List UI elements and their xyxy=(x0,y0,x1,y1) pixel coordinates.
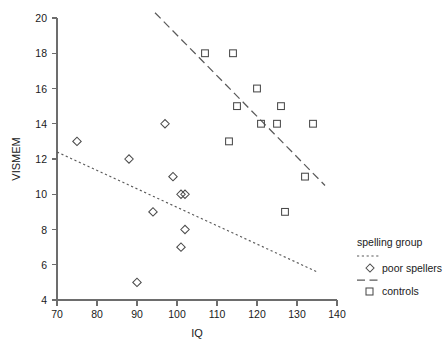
data-point xyxy=(234,103,241,110)
y-tick-label: 16 xyxy=(35,83,47,95)
x-tick-label: 70 xyxy=(51,308,63,320)
legend-marker-square xyxy=(366,288,373,295)
data-point xyxy=(230,50,237,57)
data-point xyxy=(149,208,157,216)
y-tick-label: 14 xyxy=(35,118,47,130)
y-tick-label: 8 xyxy=(41,224,47,236)
data-point xyxy=(302,173,309,180)
y-axis-ticks xyxy=(52,18,57,300)
x-tick-label: 120 xyxy=(248,308,266,320)
y-tick-label: 18 xyxy=(35,47,47,59)
data-point xyxy=(177,243,185,251)
data-point xyxy=(202,50,209,57)
y-tick-label: 4 xyxy=(41,294,47,306)
y-axis-title: VISMEM xyxy=(10,137,22,180)
fit-line-controls xyxy=(155,13,325,186)
legend-label-poor-spellers: poor spellers xyxy=(382,262,442,274)
fit-line-poor-spellers xyxy=(57,152,317,272)
series-poor-spellers xyxy=(57,120,317,287)
legend-marker-diamond xyxy=(366,264,374,272)
y-tick-label: 12 xyxy=(35,153,47,165)
x-tick-label: 80 xyxy=(91,308,103,320)
data-point xyxy=(161,120,169,128)
data-point xyxy=(254,85,261,92)
data-series-layer xyxy=(57,13,325,287)
data-point xyxy=(278,103,285,110)
x-tick-label: 90 xyxy=(131,308,143,320)
data-point xyxy=(133,278,141,286)
x-tick-label: 110 xyxy=(209,308,226,320)
x-tick-label: 140 xyxy=(328,308,346,320)
x-tick-label: 130 xyxy=(288,308,306,320)
legend: spelling group poor spellers controls xyxy=(357,236,442,297)
y-tick-label: 10 xyxy=(35,188,47,200)
y-axis-tick-labels: 4 6 8 10 12 14 16 18 20 xyxy=(35,12,47,306)
data-point xyxy=(125,155,133,163)
x-axis-title: IQ xyxy=(191,327,203,339)
data-point xyxy=(181,225,189,233)
data-point xyxy=(310,120,317,127)
x-axis-tick-labels: 70 80 90 100 110 120 130 140 xyxy=(51,308,346,320)
legend-label-controls: controls xyxy=(382,285,419,297)
x-tick-label: 100 xyxy=(168,308,186,320)
data-point xyxy=(226,138,233,145)
data-point xyxy=(258,120,265,127)
plot-canvas: 4 6 8 10 12 14 16 18 20 70 80 90 100 110 xyxy=(0,0,445,346)
scatter-plot-figure: 4 6 8 10 12 14 16 18 20 70 80 90 100 110 xyxy=(0,0,445,346)
series-controls xyxy=(155,13,325,216)
data-point xyxy=(169,172,177,180)
data-point xyxy=(282,208,289,215)
data-point xyxy=(73,137,81,145)
legend-title: spelling group xyxy=(357,236,423,248)
y-tick-label: 6 xyxy=(41,259,47,271)
x-axis-ticks xyxy=(57,300,337,306)
data-point xyxy=(274,120,281,127)
y-tick-label: 20 xyxy=(35,12,47,24)
